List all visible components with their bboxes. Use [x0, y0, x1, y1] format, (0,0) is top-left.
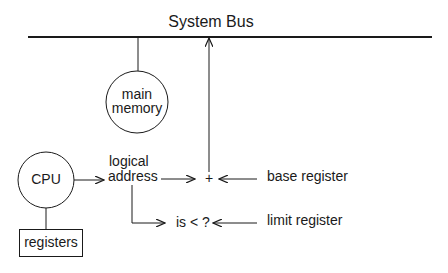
- logical-address-label-line2: address: [108, 169, 158, 184]
- diagram-canvas: [0, 0, 448, 273]
- limit-register-label: limit register: [267, 213, 342, 228]
- cpu-label: CPU: [18, 172, 74, 187]
- main-memory-label-line2: memory: [107, 101, 167, 116]
- logical-address-label-line1: logical: [109, 154, 149, 169]
- adder-symbol: +: [201, 171, 217, 186]
- registers-label: registers: [19, 235, 83, 250]
- comparator-label: is < ?: [176, 215, 210, 230]
- address-to-comparator-arrow: [132, 185, 165, 223]
- base-register-label: base register: [267, 169, 348, 184]
- system-bus-title: System Bus: [151, 13, 271, 31]
